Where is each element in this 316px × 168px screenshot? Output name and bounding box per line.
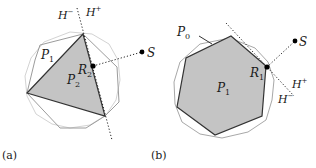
panel-b-point-r1 <box>264 64 269 69</box>
panel-a: H− H+ P1 P2 R2 S (a) <box>2 5 155 162</box>
panel-b-point-s <box>293 39 298 44</box>
panel-a-label-h-minus: H− <box>57 8 74 22</box>
panel-a-point-s <box>140 50 145 55</box>
panel-b-label-p0: P0 <box>176 25 190 41</box>
panel-a-triangle-p2 <box>27 34 105 116</box>
panel-b-label-h-plus: H+ <box>291 77 308 91</box>
panel-a-caption: (a) <box>2 149 17 162</box>
panel-b-caption: (b) <box>151 149 167 162</box>
panel-b-label-s: S <box>299 35 307 49</box>
panel-a-point-r2 <box>90 63 95 68</box>
panel-b-ray-r1-s <box>267 41 295 67</box>
panel-a-label-s: S <box>147 46 155 60</box>
panel-b: P0 P1 R1 S H+ H− (b) <box>151 23 308 162</box>
panel-b-label-h-minus: H− <box>277 92 294 106</box>
panel-a-label-p1: P1 <box>40 48 54 64</box>
diagram-canvas: H− H+ P1 P2 R2 S (a) P0 P1 R1 S H+ H− (b… <box>0 0 316 168</box>
panel-a-label-h-plus: H+ <box>85 5 102 19</box>
